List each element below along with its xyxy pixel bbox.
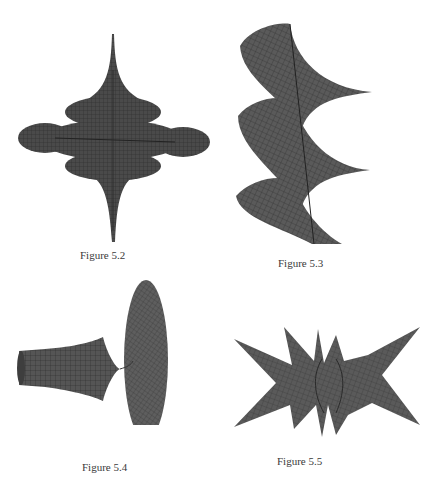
figure-5-5-caption: Figure 5.5 bbox=[277, 455, 322, 467]
spiky-disc-surface-image bbox=[15, 30, 215, 245]
figure-5-4 bbox=[15, 275, 175, 425]
figure-5-3-caption: Figure 5.3 bbox=[278, 257, 323, 269]
figure-5-4-caption: Figure 5.4 bbox=[82, 461, 127, 473]
figure-5-5 bbox=[232, 325, 432, 437]
figure-5-3 bbox=[232, 18, 392, 246]
helicoidal-surface-image bbox=[232, 18, 392, 246]
figure-5-2-caption: Figure 5.2 bbox=[80, 249, 125, 261]
horn-disc-surface-image bbox=[15, 275, 175, 425]
star-shaped-surface-image bbox=[232, 325, 432, 437]
figure-5-2 bbox=[15, 30, 215, 245]
